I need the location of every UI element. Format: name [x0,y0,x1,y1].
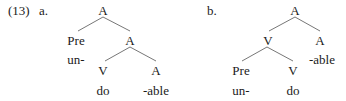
tree-a-do: do [97,84,110,97]
tree-b-able: -able [309,53,335,66]
tree-a-a: A [125,34,134,47]
tree-a-a2: A [151,64,160,77]
tree-a-pre: Pre [67,34,84,47]
tree-b-label: b. [207,4,217,17]
tree-a-un: un- [67,53,84,66]
tree-b-root: A [290,4,299,17]
tree-b-un: un- [232,84,249,97]
tree-a-v: V [98,64,107,77]
example-number: (13) [8,4,30,17]
tree-a-label: a. [39,4,48,17]
tree-b-v2: V [288,64,297,77]
tree-b-do: do [287,84,300,97]
tree-b-pre: Pre [232,64,249,77]
tree-b-v: V [263,34,272,47]
tree-a-able: -able [143,84,169,97]
tree-a-root: A [98,4,107,17]
tree-b-a: A [315,34,324,47]
